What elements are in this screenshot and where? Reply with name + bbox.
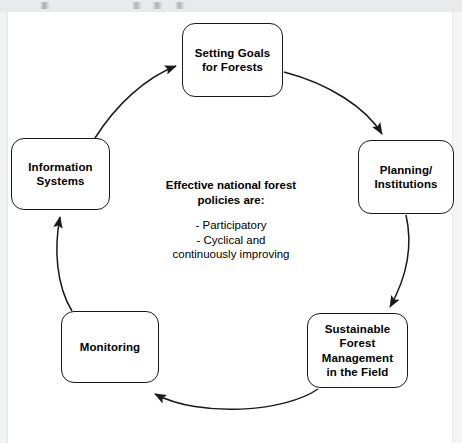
arrow-information-to-goals	[95, 66, 176, 138]
node-planning-institutions[interactable]: Planning/ Institutions	[358, 140, 454, 214]
node-information-systems[interactable]: Information Systems	[11, 138, 110, 210]
node-setting-goals-for-forests[interactable]: Setting Goals for Forests	[182, 23, 283, 97]
arrow-monitoring-to-information	[57, 217, 72, 311]
diagram-page: Setting Goals for Forests Planning/ Inst…	[0, 0, 462, 443]
arrow-goals-to-planning	[284, 72, 382, 134]
node-sustainable-forest-management-in-the-field[interactable]: Sustainable Forest Management in the Fie…	[307, 313, 408, 388]
center-annotation-bullets: - Participatory - Cyclical and continuou…	[131, 218, 331, 262]
arrow-planning-to-sustainable	[390, 215, 409, 307]
center-annotation: Effective national forest policies are: …	[131, 178, 331, 262]
center-annotation-heading: Effective national forest policies are:	[131, 178, 331, 207]
arrow-sustainable-to-monitoring	[155, 389, 318, 409]
node-monitoring[interactable]: Monitoring	[61, 311, 159, 383]
